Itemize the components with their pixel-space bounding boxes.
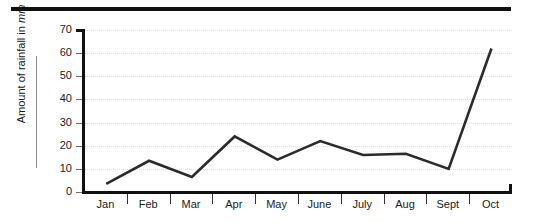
- x-tick-label: Feb: [127, 199, 170, 210]
- y-axis-tick: [76, 169, 82, 170]
- x-tick-label: July: [341, 199, 384, 210]
- y-axis-tick: [76, 192, 82, 193]
- y-axis-tick: [76, 99, 82, 100]
- series-layer: [0, 0, 540, 223]
- rainfall-line-chart: Amount of rainfall in mm 010203040506070…: [0, 0, 540, 223]
- x-tick-label: Sept: [426, 199, 469, 210]
- x-tick-label: Jan: [84, 199, 127, 210]
- x-tick-label: Aug: [384, 199, 427, 210]
- rainfall-series-line: [106, 49, 491, 184]
- x-tick-label: Mar: [170, 199, 213, 210]
- x-tick-label: May: [255, 199, 298, 210]
- x-tick-label: Apr: [212, 199, 255, 210]
- x-tick-label: Oct: [469, 199, 512, 210]
- x-tick-label: June: [298, 199, 341, 210]
- y-axis-tick: [76, 53, 82, 54]
- y-axis-tick: [76, 146, 82, 147]
- y-axis-tick: [76, 76, 82, 77]
- y-axis-tick: [76, 123, 82, 124]
